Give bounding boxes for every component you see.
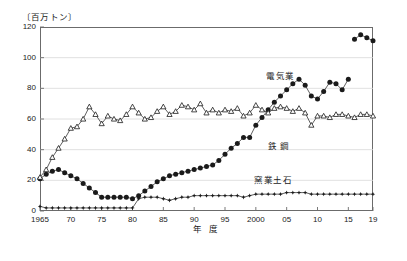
data-point [50,206,54,210]
data-point [198,193,202,197]
data-point [192,167,197,172]
plot-area: 020406080100120 196570758085909520000510… [40,27,373,211]
data-point [62,136,67,141]
data-point [173,197,177,201]
data-point [87,186,92,191]
data-point [44,172,49,177]
data-point [346,192,350,196]
data-point [210,107,215,112]
data-point [254,192,258,196]
data-point [161,176,166,181]
data-point [358,32,363,37]
data-point [235,193,239,197]
data-point [253,103,258,108]
data-point [371,38,376,43]
data-point [247,135,252,140]
data-point [112,206,116,210]
data-point [87,206,91,210]
data-point [149,184,154,189]
data-point [124,195,129,200]
data-point [87,104,92,109]
data-point [118,206,122,210]
data-point [68,173,73,178]
data-point [259,107,264,112]
data-point [44,167,49,172]
data-point [99,206,103,210]
data-point [327,80,332,85]
data-point [303,110,308,115]
data-point [340,87,345,92]
data-point [328,192,332,196]
data-point [297,190,301,194]
data-point [247,193,251,197]
data-point [321,89,326,94]
data-point [303,190,307,194]
data-point [297,77,302,82]
data-point [272,192,276,196]
data-point [198,101,203,106]
data-point [217,193,221,197]
data-point [303,83,308,88]
data-point [204,193,208,197]
data-point [75,206,79,210]
y-axis-tick-label: 20 [27,176,36,184]
data-point [290,81,295,86]
data-point [296,106,301,111]
chart-svg [40,27,373,211]
data-point [352,37,357,42]
data-point [69,206,73,210]
data-point [149,195,153,199]
data-point [266,192,270,196]
data-point [290,109,295,114]
data-point [75,176,80,181]
data-point [278,192,282,196]
data-point [352,192,356,196]
data-point [161,197,165,201]
data-point [93,206,97,210]
data-point [241,195,245,199]
data-point [235,106,240,111]
data-point [118,195,123,200]
data-point [198,166,203,171]
y-axis-tick-label: 120 [23,23,36,31]
data-point [93,190,98,195]
data-point [99,195,104,200]
data-point [291,190,295,194]
data-point [38,204,42,208]
y-axis-tick-label: 100 [23,54,36,62]
data-point [143,195,147,199]
data-point [112,195,117,200]
data-point [161,104,166,109]
data-point [229,193,233,197]
series-star [38,190,375,210]
data-point [167,173,172,178]
data-point [56,146,61,151]
data-point [81,206,85,210]
data-point [223,193,227,197]
data-point [167,198,171,202]
data-point [216,110,221,115]
y-axis-tick-label: 80 [27,84,36,92]
data-point [130,196,135,201]
data-point [321,192,325,196]
data-point [155,109,160,114]
data-point [364,35,369,40]
data-point [173,172,178,177]
series-label-electric: 電気業 [266,69,295,81]
data-point [260,192,264,196]
series-label-ceramics: 窯業土石 [254,173,292,185]
data-point [155,179,160,184]
data-point [62,206,66,210]
data-point [180,195,184,199]
data-point [315,192,319,196]
data-point [155,195,159,199]
data-point [253,123,258,128]
chart-container: 〔百万トン〕 020406080100120 19657075808590952… [0,0,407,261]
series-line [355,35,374,41]
data-point [216,158,221,163]
data-point [186,195,190,199]
data-point [130,206,134,210]
data-point [278,94,283,99]
data-point [315,97,320,102]
data-point [371,192,375,196]
